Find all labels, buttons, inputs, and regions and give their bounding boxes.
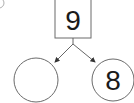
part-circle-right: 8 (92, 59, 134, 101)
part-right-value: 8 (105, 65, 121, 96)
whole-value: 9 (65, 5, 81, 36)
whole-box: 9 (55, 0, 91, 38)
part-circle-left[interactable] (14, 58, 58, 102)
right-arrow (73, 44, 95, 62)
number-bond-diagram: 9 8 (0, 0, 134, 103)
problem-number-marker (0, 0, 4, 8)
left-arrow (55, 44, 73, 62)
bond-connectors (55, 38, 95, 62)
